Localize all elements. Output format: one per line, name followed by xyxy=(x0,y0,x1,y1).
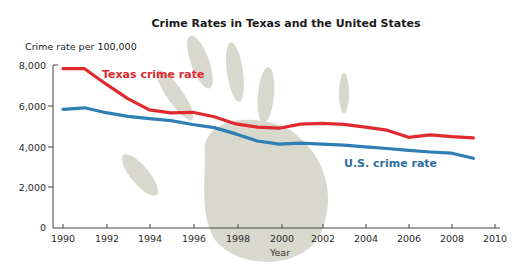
x-tick-2010: 2010 xyxy=(483,233,507,244)
y-tick-4000: 4,000 xyxy=(19,142,46,153)
x-tick-1990: 1990 xyxy=(51,233,75,244)
x-tick-2004: 2004 xyxy=(354,233,378,244)
x-tick-1994: 1994 xyxy=(138,233,162,244)
y-tick-labels: 8,000 6,000 4,000 2,000 0 xyxy=(19,60,46,233)
y-tick-2000: 2,000 xyxy=(19,182,46,193)
x-tick-2000: 2000 xyxy=(270,233,294,244)
x-axis-label: Year xyxy=(269,247,290,258)
chart-title: Crime Rates in Texas and the United Stat… xyxy=(151,17,420,30)
y-axis-label: Crime rate per 100,000 xyxy=(25,41,137,52)
x-tick-2006: 2006 xyxy=(397,233,421,244)
y-tick-6000: 6,000 xyxy=(19,101,46,112)
x-tick-2008: 2008 xyxy=(440,233,464,244)
y-tick-0: 0 xyxy=(40,222,46,233)
x-tick-1996: 1996 xyxy=(182,233,206,244)
y-tick-8000: 8,000 xyxy=(19,60,46,71)
x-tick-labels: 1990 1992 1994 1996 1998 2000 2002 2004 … xyxy=(51,233,507,244)
y-axis xyxy=(48,65,58,228)
x-tick-1992: 1992 xyxy=(95,233,119,244)
x-tick-2002: 2002 xyxy=(311,233,335,244)
x-tick-1998: 1998 xyxy=(226,233,250,244)
us-series-label: U.S. crime rate xyxy=(344,157,437,170)
texas-series-label: Texas crime rate xyxy=(102,68,204,81)
crime-rate-chart: Crime Rates in Texas and the United Stat… xyxy=(0,0,532,277)
